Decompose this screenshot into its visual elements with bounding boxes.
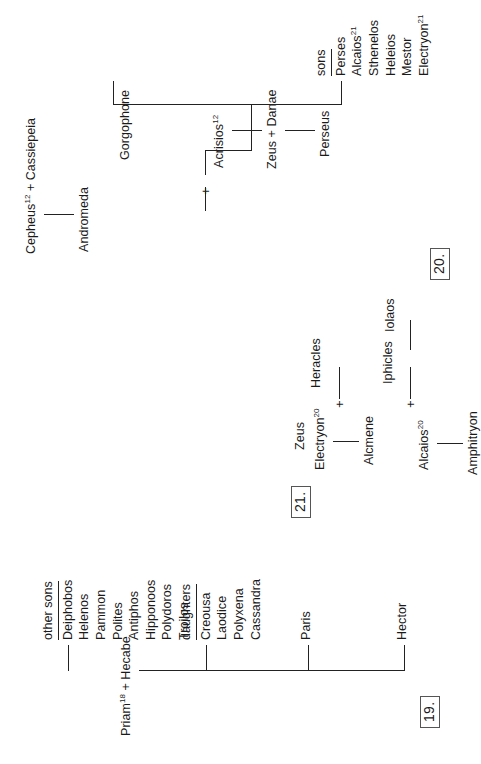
- figure-19-other-sons-heading: other sons: [40, 581, 59, 640]
- figure-20-andromeda: Andromeda: [78, 187, 92, 252]
- list-item: Helenos: [76, 580, 93, 640]
- list-item: Pammon: [93, 580, 110, 640]
- list-item: Cassandra: [248, 579, 265, 640]
- figure-20-children-bus: [113, 104, 341, 105]
- figure-20-marriage-line-2: [205, 151, 206, 175]
- figure-21-union-left: +: [404, 400, 418, 408]
- list-item: Antiphos: [126, 580, 143, 640]
- figure-19-child-hector: Hector: [396, 603, 410, 640]
- figure-21-iphicles: Iphicles: [382, 341, 396, 384]
- rotated-page-stage: 19. Priam18 + Hecabe Hector Paris daught…: [0, 0, 481, 764]
- list-item: Creousa: [198, 579, 215, 640]
- figure-21-heracles: Heracles: [310, 338, 324, 388]
- list-item: Hipponoos: [143, 580, 160, 640]
- figure-19-group-other-sons: other sons Deiphobos Helenos Pammon Poli…: [40, 580, 193, 640]
- figure-21-union-right: +: [333, 400, 347, 408]
- list-item: Deiphobos: [60, 580, 77, 640]
- figure-20-bus-stem: [251, 104, 252, 151]
- list-item: Perses: [333, 14, 350, 76]
- figure-20-perseus: Perseus: [319, 111, 333, 157]
- list-item: Heleios: [383, 14, 400, 76]
- figure-20-danae-to-perseus: [285, 130, 315, 131]
- figure-19-branch-other-sons: [68, 645, 69, 671]
- figure-20-acrisios: Acrisios12: [213, 115, 227, 168]
- figure-21-electryon-drop: [333, 441, 359, 442]
- list-item: Troilos: [176, 580, 193, 640]
- figure-20-cepheus-to-andromeda: [44, 214, 74, 215]
- list-item: Alcaios21: [349, 14, 366, 76]
- figure-20-marriage-drop: [205, 150, 251, 151]
- figure-19-root-couple: Priam18 + Hecabe: [120, 636, 134, 736]
- figure-21-line-amphitryon-iphicles: [410, 367, 411, 399]
- figure-21-alcmene: Alcmene: [363, 416, 377, 465]
- figure-19-child-paris: Paris: [300, 611, 314, 640]
- figure-21-iolaos: Iolaos: [384, 298, 398, 332]
- figure-20-gorgophone: Gorgophone: [119, 90, 133, 160]
- figure-19-trunk: [139, 670, 404, 671]
- figure-21-amphitryon: Amphitryon: [467, 411, 481, 475]
- list-item: Electryon21: [416, 14, 433, 76]
- list-item: Polyxena: [231, 579, 248, 640]
- figure-20-marriage-line: [205, 187, 206, 211]
- figure-20-sons-heading: sons: [313, 49, 332, 76]
- figure-21-line-zeus-heracles: [339, 367, 340, 399]
- list-item: Polites: [110, 580, 127, 640]
- figure-19-branch-paris: [308, 645, 309, 671]
- figure-21: 21. Alcaios20 Electryon20 Amphitryon + A…: [288, 260, 481, 520]
- figure-19-branch-daughters: [206, 645, 207, 671]
- figure-20-branch-gorgophone: [113, 81, 114, 105]
- figure-20-acrisios-to-danae: [232, 130, 262, 131]
- figure-20-branch-sons: [341, 81, 342, 105]
- list-item: Sthenelos: [366, 14, 383, 76]
- figure-20-cepheus-cassiepeia: Cepheus12 + Cassiepeia: [25, 118, 39, 254]
- figure-21-electryon: Electryon20: [314, 408, 328, 470]
- figure-19-branch-hector: [404, 645, 405, 671]
- list-item: Mestor: [399, 14, 416, 76]
- list-item: Laodice: [214, 579, 231, 640]
- figure-20-sons-group: sons Perses Alcaios21 Sthenelos Heleios …: [313, 14, 432, 76]
- figure-21-alcaios: Alcaios20: [418, 420, 432, 470]
- list-item: Polydoros: [159, 580, 176, 640]
- figure-19-number: 19.: [420, 696, 440, 728]
- figure-21-zeus: Zeus: [294, 422, 308, 450]
- figure-21-line-iphicles-iolaos: [410, 320, 411, 350]
- figure-20-zeus-danae: Zeus + Danae: [266, 90, 280, 169]
- figure-20-union-symbol: +: [199, 187, 213, 195]
- figure-21-alcaios-drop: [437, 443, 463, 444]
- figure-21-number: 21.: [291, 486, 311, 518]
